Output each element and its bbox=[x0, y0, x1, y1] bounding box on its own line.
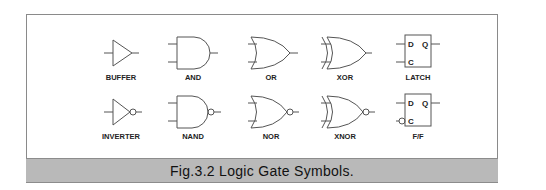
nor-gate-icon bbox=[248, 96, 299, 128]
latch-label: LATCH bbox=[406, 73, 431, 82]
and-label: AND bbox=[185, 73, 202, 82]
latch-pin-d: D bbox=[408, 40, 414, 49]
ff-pin-c: C bbox=[408, 117, 414, 126]
ff-label: F/F bbox=[412, 132, 424, 141]
latch-pin-c: C bbox=[408, 58, 414, 67]
nand-label: NAND bbox=[182, 132, 204, 141]
nand-gate-icon bbox=[168, 96, 221, 128]
inverter-label: INVERTER bbox=[102, 132, 141, 141]
flip-flop-icon bbox=[396, 94, 440, 126]
xor-gate-icon bbox=[321, 37, 372, 69]
xnor-gate-icon bbox=[321, 96, 375, 128]
latch-pin-q: Q bbox=[422, 40, 428, 49]
inverter-gate-icon bbox=[104, 99, 142, 125]
buffer-gate-icon bbox=[104, 40, 139, 66]
latch-icon bbox=[396, 35, 440, 67]
xnor-label: XNOR bbox=[334, 132, 356, 141]
ff-pin-d: D bbox=[408, 99, 414, 108]
or-label: OR bbox=[265, 73, 277, 82]
or-gate-icon bbox=[248, 37, 298, 69]
and-gate-icon bbox=[168, 37, 218, 69]
nor-label: NOR bbox=[263, 132, 280, 141]
buffer-label: BUFFER bbox=[106, 73, 137, 82]
ff-pin-q: Q bbox=[422, 99, 428, 108]
figure-caption: Fig.3.2 Logic Gate Symbols. bbox=[26, 158, 498, 183]
xor-label: XOR bbox=[337, 73, 354, 82]
